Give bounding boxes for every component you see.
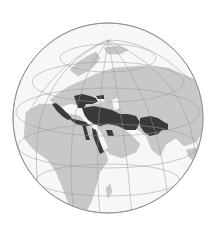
globe-map [0, 0, 213, 227]
